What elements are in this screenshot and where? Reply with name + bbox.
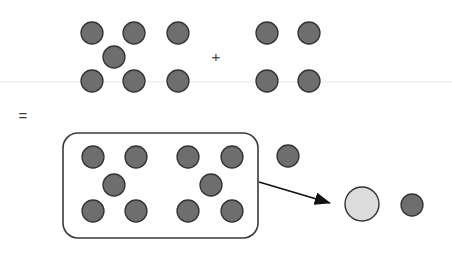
unit-circle — [125, 200, 147, 222]
sum-remainder-group — [277, 145, 299, 167]
unit-circle — [298, 22, 320, 44]
unit-circle — [123, 22, 145, 44]
unit-circle — [177, 146, 199, 168]
addend-left-group — [81, 22, 189, 92]
regroup-arrow — [259, 182, 330, 203]
unit-circle — [277, 145, 299, 167]
unit-circle — [81, 22, 103, 44]
unit-circle — [103, 46, 125, 68]
regrouped-result-group — [345, 187, 423, 221]
unit-circle — [125, 146, 147, 168]
unit-circle — [298, 70, 320, 92]
unit-circle — [221, 200, 243, 222]
unit-circle — [81, 70, 103, 92]
diagram-svg: + = — [0, 0, 452, 256]
diagram-canvas: + = — [0, 0, 452, 256]
unit-circle — [123, 70, 145, 92]
unit-circle — [82, 146, 104, 168]
unit-circle — [82, 200, 104, 222]
ten-circle — [345, 187, 379, 221]
unit-circle — [401, 194, 423, 216]
unit-circle — [167, 22, 189, 44]
equals-operator: = — [19, 107, 28, 124]
unit-circle — [177, 200, 199, 222]
unit-circle — [200, 174, 222, 196]
unit-circle — [256, 70, 278, 92]
unit-circle — [103, 174, 125, 196]
unit-circle — [167, 70, 189, 92]
unit-circle — [221, 146, 243, 168]
sum-boxed-group — [82, 146, 243, 222]
unit-circle — [256, 22, 278, 44]
plus-operator: + — [212, 48, 221, 65]
